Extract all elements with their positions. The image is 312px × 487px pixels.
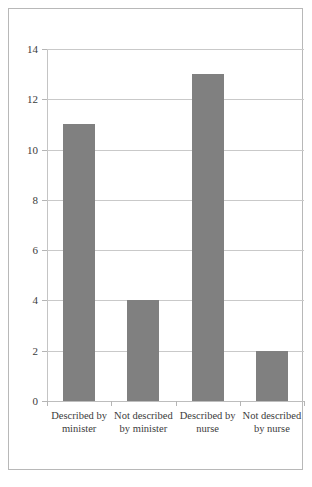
x-axis-labels: Described by ministerNot described by mi…	[47, 409, 304, 435]
y-tick-label: 0	[33, 396, 39, 407]
x-tick-mark	[176, 401, 177, 406]
bar-slot	[176, 49, 240, 401]
bar[interactable]	[192, 74, 224, 401]
bar[interactable]	[256, 351, 288, 401]
x-tick-mark	[47, 401, 48, 406]
y-tick-label: 14	[27, 44, 38, 55]
x-axis-category-label: Described by nurse	[176, 409, 240, 435]
y-tick-label: 2	[33, 345, 39, 356]
x-axis-category-label: Not described by nurse	[240, 409, 304, 435]
x-tick-mark	[111, 401, 112, 406]
x-tick-mark	[304, 401, 305, 406]
bar[interactable]	[127, 300, 159, 401]
y-tick-label: 10	[27, 144, 38, 155]
x-tick-mark	[240, 401, 241, 406]
bars-group	[47, 49, 304, 401]
bar-slot	[240, 49, 304, 401]
chart-figure: 14121086420 Described by ministerNot des…	[0, 0, 312, 487]
y-tick-label: 6	[33, 245, 39, 256]
bar-slot	[111, 49, 175, 401]
x-axis-category-label: Described by minister	[47, 409, 111, 435]
y-tick-label: 12	[27, 94, 38, 105]
x-axis-category-label: Not described by minister	[111, 409, 175, 435]
figure-border: 14121086420 Described by ministerNot des…	[8, 8, 303, 470]
y-tick-label: 8	[33, 194, 39, 205]
bar[interactable]	[63, 124, 95, 401]
plot-area: 14121086420	[47, 49, 304, 401]
y-tick-label: 4	[33, 295, 39, 306]
bar-slot	[47, 49, 111, 401]
